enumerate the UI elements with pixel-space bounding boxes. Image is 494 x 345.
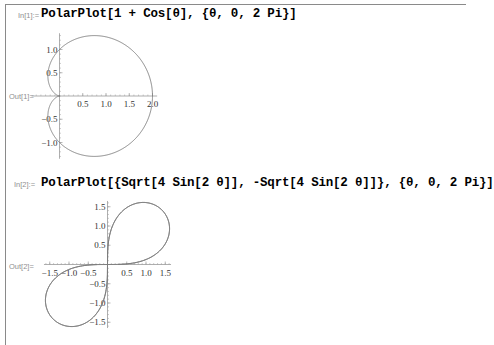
x-tick-label: −0.5 [80, 268, 97, 278]
x-tick-label: 0.5 [121, 268, 133, 278]
y-tick-label: 0.5 [94, 240, 106, 250]
x-tick-label: −1.5 [42, 268, 59, 278]
x-tick-label: 1.0 [100, 99, 112, 109]
y-tick-label: −1.0 [41, 138, 58, 148]
y-tick-label: 1.0 [94, 221, 106, 231]
y-tick-label: −0.5 [41, 114, 58, 124]
x-tick-label: 1.5 [124, 99, 136, 109]
x-tick-label: 1.0 [140, 268, 152, 278]
cardioid-plot[interactable]: 0.51.01.52.0−1.0−0.50.51.0 [32, 33, 159, 159]
x-tick-label: 1.5 [160, 268, 172, 278]
y-tick-label: −0.5 [89, 279, 106, 289]
y-tick-label: 1.5 [94, 202, 106, 212]
x-tick-label: 0.5 [77, 99, 89, 109]
lemniscate-plot[interactable]: −1.5−1.0−0.50.51.01.5−1.5−1.0−0.50.51.01… [42, 201, 172, 328]
